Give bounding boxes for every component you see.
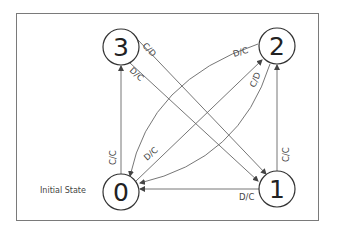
edge-3-to-1-dc bbox=[130, 63, 258, 181]
edge-label-1-2: C/C bbox=[281, 147, 291, 162]
state-node-0: 0 bbox=[103, 174, 139, 210]
svg-text:1: 1 bbox=[269, 175, 285, 204]
initial-state-label: Initial State bbox=[40, 186, 86, 195]
state-node-1: 1 bbox=[259, 171, 295, 207]
svg-text:3: 3 bbox=[113, 33, 129, 62]
edge-label-2-0-dc: D/C bbox=[232, 45, 250, 59]
edge-label-3-1-cd: C/D bbox=[141, 41, 159, 59]
edge-label-0-3: C/C bbox=[108, 150, 118, 165]
edge-label-0-2: D/C bbox=[142, 145, 160, 163]
state-diagram: C/C C/C D/C C/D D/C D/C C/D D/C 3 2 0 1 bbox=[0, 0, 337, 235]
svg-text:2: 2 bbox=[269, 32, 285, 61]
edge-label-2-0-cd: C/D bbox=[248, 70, 263, 88]
state-node-2: 2 bbox=[259, 28, 295, 64]
edge-0-to-2 bbox=[136, 60, 262, 181]
state-node-3: 3 bbox=[103, 29, 139, 65]
edge-label-1-0: D/C bbox=[239, 192, 254, 202]
svg-text:0: 0 bbox=[113, 178, 129, 207]
edge-label-3-1-dc: D/C bbox=[128, 65, 146, 83]
